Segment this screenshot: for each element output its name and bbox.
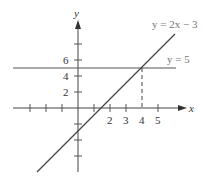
- y-tick-label-6: 6: [63, 54, 69, 66]
- x-axis-arrow-icon: [178, 105, 187, 111]
- y-tick-label-4: 4: [63, 70, 69, 82]
- line-label-y-equals-5: y = 5: [167, 53, 190, 65]
- graph: y x 2 3 4 5 6 4 2 y = 2x − 3 y = 5: [0, 0, 204, 184]
- x-tick-label-2: 2: [107, 114, 113, 126]
- x-tick-label-5: 5: [155, 114, 161, 126]
- x-tick-label-4: 4: [139, 114, 145, 126]
- y-tick-label-2: 2: [63, 86, 69, 98]
- y-axis-label: y: [73, 7, 79, 19]
- y-axis-arrow-icon: [75, 20, 81, 29]
- line-y-equals-2x-minus-3: [37, 34, 175, 172]
- line-label-2x-minus-3: y = 2x − 3: [152, 18, 198, 30]
- x-axis-label: x: [188, 102, 194, 114]
- x-tick-label-3: 3: [123, 114, 129, 126]
